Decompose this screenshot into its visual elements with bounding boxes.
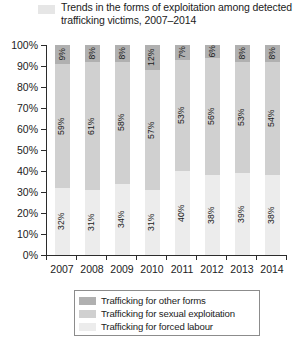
bar-segment-label: 54% (268, 110, 277, 127)
legend-swatch-icon (79, 323, 96, 331)
x-axis-tick-mark (226, 255, 227, 260)
x-axis-tick-label: 2012 (195, 263, 229, 275)
y-axis-tick-label: 90% (2, 60, 38, 72)
bar-segment[interactable]: 38% (265, 175, 280, 255)
bar-segment[interactable]: 8% (115, 45, 130, 62)
bar-segment-label: 38% (268, 206, 277, 223)
bar-segment[interactable]: 9% (55, 45, 70, 64)
bars-container: 9%59%32%8%61%31%8%58%34%12%57%31%7%53%40… (47, 45, 287, 255)
bar-segment[interactable]: 8% (265, 45, 280, 62)
bar-2010[interactable]: 12%57%31% (145, 45, 160, 255)
bar-segment[interactable]: 53% (175, 60, 190, 171)
bar-2013[interactable]: 8%53%39% (235, 45, 250, 255)
chart-title-block: Trends in the forms of exploitation amon… (0, 0, 303, 36)
x-axis-tick-mark (76, 255, 77, 260)
x-axis-tick-mark (106, 255, 107, 260)
bar-segment-label: 56% (208, 108, 217, 125)
y-axis-tick-label: 30% (2, 186, 38, 198)
x-axis-tick-label: 2010 (135, 263, 169, 275)
bar-segment-label: 31% (148, 214, 157, 231)
legend-item-sexual-exploitation[interactable]: Trafficking for sexual exploitation (79, 307, 259, 320)
legend-swatch-icon (79, 297, 96, 305)
y-axis-tick-label: 50% (2, 144, 38, 156)
y-axis-tick-label: 80% (2, 81, 38, 93)
bar-segment[interactable]: 39% (235, 173, 250, 255)
bar-segment[interactable]: 31% (85, 190, 100, 255)
x-axis-tick-mark (256, 255, 257, 260)
bar-segment[interactable]: 53% (235, 62, 250, 173)
bar-segment-label: 8% (88, 47, 97, 59)
bar-2008[interactable]: 8%61%31% (85, 45, 100, 255)
legend-item-label: Trafficking for sexual exploitation (101, 308, 235, 319)
bar-segment-label: 40% (178, 204, 187, 221)
bar-segment[interactable]: 31% (145, 190, 160, 255)
bar-segment-label: 58% (118, 114, 127, 131)
x-axis-tick-label: 2008 (75, 263, 109, 275)
y-axis-tick-label: 10% (2, 228, 38, 240)
bar-segment[interactable]: 54% (265, 62, 280, 175)
legend-swatch-icon (79, 310, 96, 318)
bar-segment-label: 8% (118, 47, 127, 59)
bar-segment-label: 8% (268, 47, 277, 59)
y-axis-tick-mark (41, 150, 46, 151)
y-axis-tick-label: 40% (2, 165, 38, 177)
bar-segment[interactable]: 38% (205, 175, 220, 255)
bar-segment-label: 53% (178, 107, 187, 124)
bar-segment-label: 57% (148, 121, 157, 138)
bar-segment-label: 34% (118, 211, 127, 228)
bar-segment-label: 39% (238, 205, 247, 222)
bar-segment[interactable]: 7% (175, 45, 190, 60)
bar-segment-label: 8% (238, 47, 247, 59)
bar-2011[interactable]: 7%53%40% (175, 45, 190, 255)
bar-segment[interactable]: 32% (55, 188, 70, 255)
title-swatch-icon (38, 5, 55, 14)
y-axis-tick-label: 100% (2, 39, 38, 51)
bar-segment-label: 53% (238, 109, 247, 126)
chart-legend: Trafficking for other formsTrafficking f… (74, 290, 260, 336)
bar-2009[interactable]: 8%58%34% (115, 45, 130, 255)
bar-segment-label: 31% (88, 214, 97, 231)
bar-segment[interactable]: 57% (145, 70, 160, 190)
x-axis-tick-label: 2013 (225, 263, 259, 275)
bar-segment[interactable]: 8% (235, 45, 250, 62)
bar-segment-label: 61% (88, 117, 97, 134)
bar-segment-label: 9% (58, 48, 67, 60)
y-axis-tick-mark (41, 66, 46, 67)
bar-segment-label: 12% (148, 49, 157, 66)
y-axis-tick-mark (41, 87, 46, 88)
legend-item-forced-labour[interactable]: Trafficking for forced labour (79, 320, 259, 333)
x-axis-tick-mark (46, 255, 47, 260)
bar-segment[interactable]: 58% (115, 62, 130, 184)
x-axis-tick-label: 2007 (45, 263, 79, 275)
y-axis-tick-label: 60% (2, 123, 38, 135)
bar-segment[interactable]: 6% (205, 45, 220, 58)
x-axis-tick-mark (196, 255, 197, 260)
bar-segment-label: 59% (58, 117, 67, 134)
bar-segment[interactable]: 12% (145, 45, 160, 70)
y-axis-tick-mark (41, 129, 46, 130)
legend-item-other-forms[interactable]: Trafficking for other forms (79, 294, 259, 307)
y-axis-tick-mark (41, 192, 46, 193)
bar-segment-label: 38% (208, 206, 217, 223)
legend-item-label: Trafficking for forced labour (101, 321, 213, 332)
y-axis-tick-mark (41, 45, 46, 46)
x-axis-tick-mark (286, 255, 287, 260)
y-axis-tick-mark (41, 171, 46, 172)
bar-2007[interactable]: 9%59%32% (55, 45, 70, 255)
bar-segment[interactable]: 59% (55, 64, 70, 188)
y-axis-tick-mark (41, 213, 46, 214)
bar-2014[interactable]: 8%54%38% (265, 45, 280, 255)
y-axis-tick-label: 20% (2, 207, 38, 219)
y-axis-tick-mark (41, 234, 46, 235)
chart-plot-area: 0%10%20%30%40%50%60%70%80%90%100% 9%59%3… (0, 36, 303, 289)
bar-segment[interactable]: 34% (115, 184, 130, 255)
bar-segment[interactable]: 40% (175, 171, 190, 255)
bar-segment[interactable]: 8% (85, 45, 100, 62)
x-axis-tick-mark (136, 255, 137, 260)
bar-2012[interactable]: 6%56%38% (205, 45, 220, 255)
bar-segment[interactable]: 61% (85, 62, 100, 190)
x-axis-tick-label: 2014 (255, 263, 289, 275)
bar-segment[interactable]: 56% (205, 58, 220, 176)
y-axis-tick-mark (41, 108, 46, 109)
x-axis-tick-label: 2009 (105, 263, 139, 275)
